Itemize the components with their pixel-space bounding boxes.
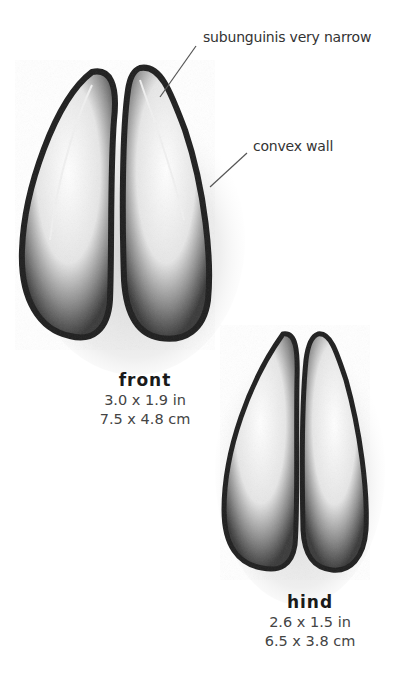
front-track: [15, 60, 245, 375]
annotation-convex-wall: convex wall: [253, 138, 333, 154]
annotation-subunguinis: subunguinis very narrow: [203, 29, 371, 45]
hind-size-cm: 6.5 x 3.8 cm: [240, 632, 380, 651]
hoof-track-illustration: [0, 0, 419, 690]
hind-caption: hind 2.6 x 1.5 in 6.5 x 3.8 cm: [240, 592, 380, 651]
front-size-in: 3.0 x 1.9 in: [70, 391, 220, 410]
hind-track: [215, 325, 385, 605]
front-title: front: [70, 370, 220, 391]
front-size-cm: 7.5 x 4.8 cm: [70, 410, 220, 429]
front-caption: front 3.0 x 1.9 in 7.5 x 4.8 cm: [70, 370, 220, 429]
hind-title: hind: [240, 592, 380, 613]
hind-size-in: 2.6 x 1.5 in: [240, 613, 380, 632]
